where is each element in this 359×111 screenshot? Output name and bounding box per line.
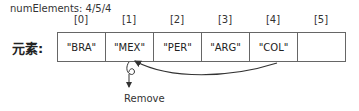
shift-arrow-icon — [135, 61, 277, 75]
remove-hook-icon — [127, 62, 135, 74]
remove-label: Remove — [124, 93, 165, 104]
annotation-overlay — [0, 0, 359, 111]
